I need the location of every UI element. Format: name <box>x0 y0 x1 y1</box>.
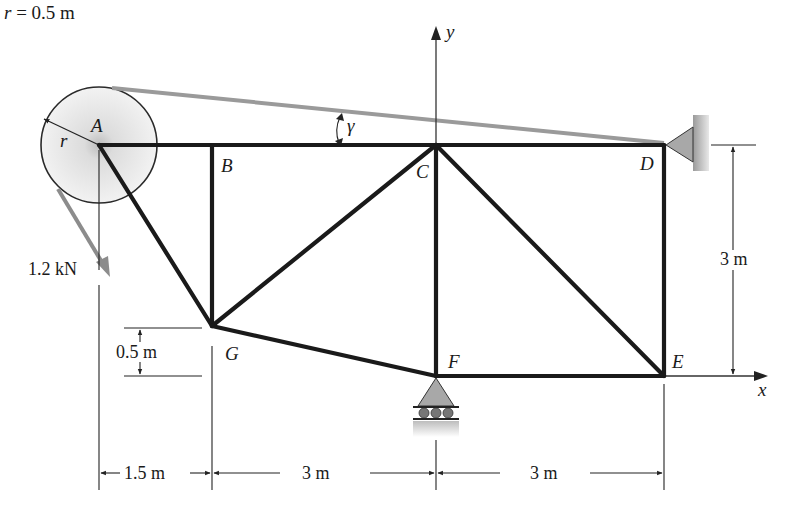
x-axis-label: x <box>758 380 766 399</box>
y-axis-label: y <box>446 22 454 41</box>
roller-support-F <box>413 378 459 437</box>
force-label: 1.2 kN <box>26 260 79 278</box>
truss-diagram: r = 0.5 m A r B C D E F G γ y x 1.2 kN 0… <box>0 0 801 518</box>
node-label-F: F <box>448 352 460 371</box>
y-axis-arrow-icon <box>431 26 441 40</box>
truss-members <box>99 145 664 376</box>
dim-label-3: 3 m <box>528 464 560 482</box>
node-label-E: E <box>672 352 684 371</box>
node-label-G: G <box>225 344 239 363</box>
node-label-B: B <box>221 156 233 175</box>
member-GC <box>212 145 436 326</box>
axes <box>431 26 768 381</box>
node-label-D: D <box>640 154 654 173</box>
pulley-radius-label: r = 0.5 m <box>2 3 77 22</box>
height-dim-label: 3 m <box>718 250 750 268</box>
node-label-C: C <box>416 162 429 181</box>
member-AG <box>99 145 212 326</box>
gamma-angle-label: γ <box>347 116 355 135</box>
radius-label: r <box>60 131 67 150</box>
member-CE <box>436 145 664 376</box>
pin-support-D <box>666 115 709 171</box>
g-offset-dim-label: 0.5 m <box>114 343 159 361</box>
dim-label-1: 1.5 m <box>122 464 167 482</box>
truss-drawing <box>0 0 801 518</box>
dim-label-2: 3 m <box>300 464 332 482</box>
node-label-A: A <box>91 116 103 135</box>
r-symbol: r <box>4 2 11 23</box>
member-GF <box>212 326 436 376</box>
cable <box>112 88 664 143</box>
